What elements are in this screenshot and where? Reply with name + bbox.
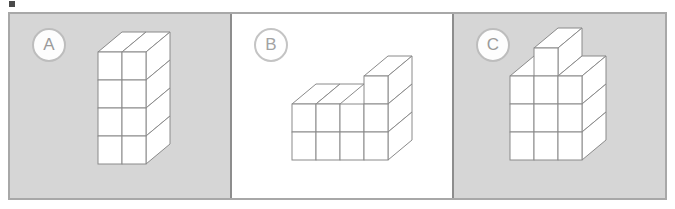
cube-stack-c [454,14,665,198]
panel-b[interactable]: B [230,14,452,198]
cube-faces-b [292,56,412,160]
cube-stack-b-svg [232,14,452,198]
cube-figure-panels: A [8,12,667,200]
top-edge-artifact [9,1,15,7]
cube-stack-a-svg [10,14,230,198]
panel-a[interactable]: A [10,14,230,198]
cube-faces-a [98,32,170,164]
cube-stack-b [232,14,452,198]
cube-faces-c [510,28,606,160]
panel-c[interactable]: C [452,14,665,198]
cube-stack-c-svg [454,14,665,198]
cube-stack-a [10,14,230,198]
